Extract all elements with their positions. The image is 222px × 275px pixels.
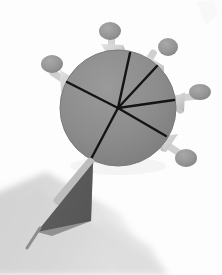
probe-right-ball: [189, 84, 211, 100]
probe-lower-right-ball: [175, 149, 197, 167]
probe-upper-right-ball: [158, 38, 178, 56]
central-sphere: [60, 50, 176, 166]
scene-svg: [0, 0, 222, 275]
probe-top-ball: [99, 22, 121, 40]
probe-left-ball: [41, 55, 63, 73]
illustration-canvas: Radial vector sphere with arrow probes: [0, 0, 222, 275]
